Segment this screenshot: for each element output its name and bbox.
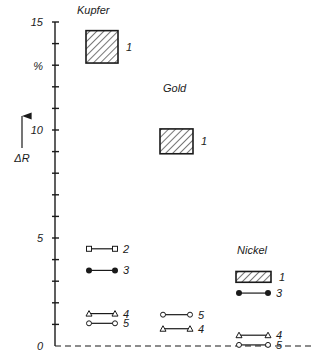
range-box: [86, 31, 118, 63]
series-label: 1: [201, 135, 207, 147]
y-tick-label: 0: [37, 340, 44, 352]
group-gold: Gold154: [160, 82, 207, 335]
group-label: Nickel: [237, 244, 268, 256]
open-circle-marker: [161, 312, 166, 317]
open-circle-marker: [237, 342, 242, 347]
range-box: [160, 129, 193, 154]
y-tick-label: 15: [31, 16, 44, 28]
series-label: 5: [123, 317, 130, 329]
y-tick-label: 10: [31, 124, 44, 136]
series-label: 5: [276, 339, 283, 351]
axis-layer: 051015%ΔR: [13, 16, 312, 352]
series-label: 3: [276, 287, 283, 299]
open-circle-marker: [266, 342, 271, 347]
series-label: 1: [279, 271, 285, 283]
filled-circle-marker: [265, 290, 271, 296]
series-label: 4: [198, 323, 204, 335]
range-box: [236, 271, 271, 282]
square-marker: [113, 246, 118, 251]
filled-circle-marker: [112, 267, 118, 273]
marks-layer: Kupfer12345Gold154Nickel1345: [77, 4, 285, 351]
series-label: 1: [126, 41, 132, 53]
series-label: 2: [122, 243, 129, 255]
y-unit-label: %: [33, 60, 43, 72]
series-label: 3: [123, 264, 130, 276]
open-circle-marker: [113, 321, 118, 326]
open-circle-marker: [188, 312, 193, 317]
filled-circle-marker: [236, 290, 242, 296]
y-axis-label: ΔR: [13, 152, 29, 164]
square-marker: [87, 246, 92, 251]
y-tick-label: 5: [37, 232, 44, 244]
open-circle-marker: [87, 321, 92, 326]
resistance-change-chart: 051015%ΔR Kupfer12345Gold154Nickel1345: [0, 0, 316, 358]
group-label: Kupfer: [77, 4, 111, 16]
group-nickel: Nickel1345: [236, 244, 285, 351]
group-kupfer: Kupfer12345: [77, 4, 132, 329]
series-label: 5: [198, 309, 205, 321]
group-label: Gold: [163, 82, 187, 94]
filled-circle-marker: [86, 267, 92, 273]
